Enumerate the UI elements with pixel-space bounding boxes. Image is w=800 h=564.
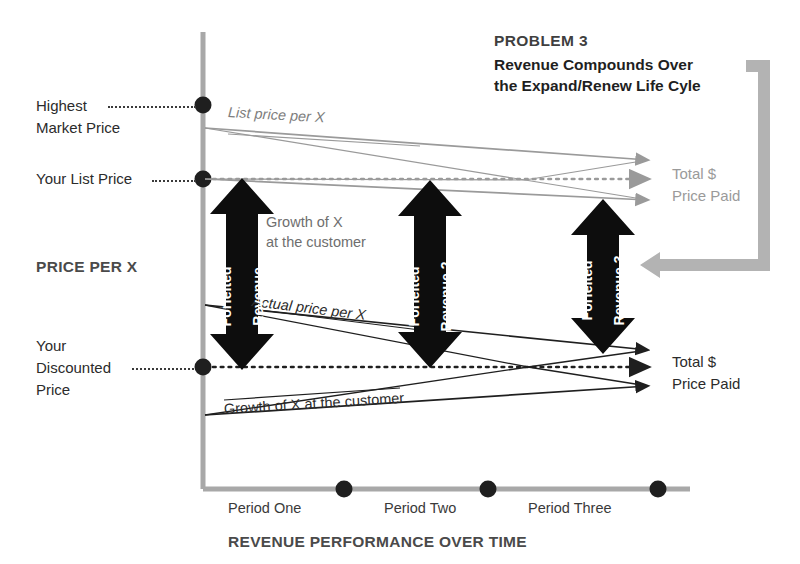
diagram-canvas: PROBLEM 3 Revenue Compounds Over the Exp…: [0, 0, 800, 564]
price-label-your-list-price: Your List Price: [36, 170, 132, 188]
x-tick-label-period-two: Period Two: [384, 500, 456, 518]
title-kicker: PROBLEM 3: [494, 32, 588, 51]
x-tick-label-period-one: Period One: [228, 500, 301, 518]
curve-label-growth-upper-line1: Growth of X: [266, 214, 343, 232]
y-axis-title: PRICE PER X: [36, 258, 138, 277]
leader-your-discounted-price: [132, 368, 194, 370]
title-line-1: Revenue Compounds Over: [494, 55, 693, 76]
x-axis-title: REVENUE PERFORMANCE OVER TIME: [228, 533, 527, 552]
forfeited-revenue-3-line2: Revenue 3: [611, 255, 627, 325]
x-tick-label-period-three: Period Three: [528, 500, 612, 518]
forfeited-revenue-1-line2: Revenue: [250, 267, 266, 325]
forfeited-revenue-3-label: Forfeited Revenue 3: [563, 243, 643, 353]
price-label-your-discounted-price-line1: Your: [36, 337, 66, 355]
price-label-your-discounted-price-line3: Price: [36, 381, 70, 399]
forfeited-revenue-2-label: Forfeited Revenue 2: [390, 244, 470, 364]
forfeited-revenue-1-label: Forfeited Revenue: [202, 244, 282, 364]
forfeited-revenue-2-line2: Revenue 2: [438, 261, 454, 331]
forfeited-revenue-2-line1: Forfeited: [406, 267, 422, 327]
leader-your-list-price: [152, 180, 196, 182]
forfeited-revenue-3-line1: Forfeited: [579, 261, 595, 321]
price-label-highest-market-price-line2: Market Price: [36, 119, 120, 137]
price-label-your-discounted-price-line2: Discounted: [36, 359, 111, 377]
endpoint-lower-line1: Total $: [672, 352, 716, 372]
endpoint-upper-line1: Total $: [672, 164, 716, 184]
forfeited-revenue-1-line1: Forfeited: [218, 267, 234, 327]
leader-highest-market-price: [108, 106, 196, 108]
endpoint-lower-line2: Price Paid: [672, 374, 740, 394]
title-line-2: the Expand/Renew Life Cyle: [494, 76, 701, 97]
price-label-highest-market-price-line1: Highest: [36, 97, 87, 115]
endpoint-upper-line2: Price Paid: [672, 186, 740, 206]
